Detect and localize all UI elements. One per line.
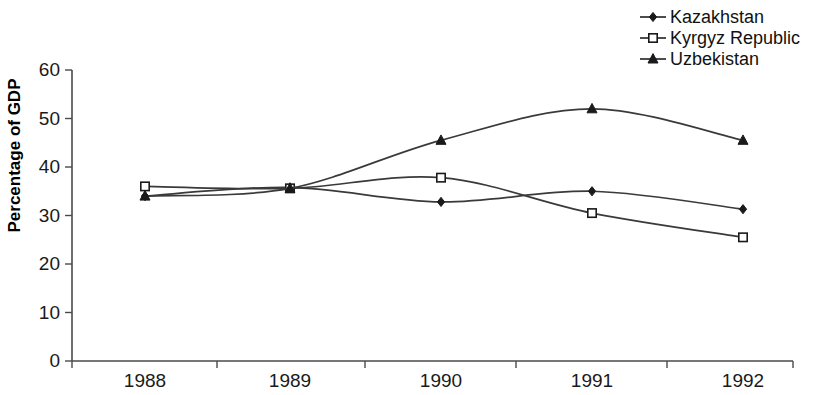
x-axis-ticks: 19881989199019911992 bbox=[72, 361, 793, 391]
chart-axes bbox=[72, 70, 793, 361]
legend-item-label: Kyrgyz Republic bbox=[670, 28, 800, 48]
data-point-marker bbox=[739, 205, 746, 214]
line-chart: KazakhstanKyrgyz RepublicUzbekistan 0102… bbox=[0, 0, 823, 395]
series-line bbox=[145, 187, 743, 209]
x-tick-label: 1990 bbox=[420, 370, 462, 391]
y-tick-label: 20 bbox=[39, 253, 60, 274]
x-tick-label: 1991 bbox=[571, 370, 613, 391]
legend-item-uzbekistan[interactable]: Uzbekistan bbox=[640, 49, 759, 69]
series-line bbox=[145, 109, 743, 196]
data-point-marker bbox=[141, 182, 149, 190]
series-uzbekistan bbox=[140, 103, 748, 200]
chart-container: KazakhstanKyrgyz RepublicUzbekistan 0102… bbox=[0, 0, 823, 395]
legend-item-kyrgyz-republic[interactable]: Kyrgyz Republic bbox=[640, 28, 800, 48]
series-line bbox=[145, 177, 743, 237]
y-tick-label: 0 bbox=[49, 350, 60, 371]
x-tick-label: 1989 bbox=[269, 370, 311, 391]
y-axis-ticks: 0102030405060 bbox=[39, 59, 72, 371]
data-point-marker bbox=[437, 197, 444, 206]
y-tick-label: 60 bbox=[39, 59, 60, 80]
data-point-marker bbox=[437, 173, 445, 181]
data-point-marker bbox=[588, 187, 595, 196]
y-axis-title: Percentage of GDP bbox=[5, 79, 24, 233]
series-kyrgyz-republic bbox=[141, 173, 747, 241]
legend-item-label: Uzbekistan bbox=[670, 49, 759, 69]
legend-item-label: Kazakhstan bbox=[670, 7, 764, 27]
x-tick-label: 1992 bbox=[722, 370, 764, 391]
y-tick-label: 30 bbox=[39, 205, 60, 226]
y-tick-label: 10 bbox=[39, 302, 60, 323]
legend-marker-icon bbox=[649, 12, 656, 21]
y-tick-label: 50 bbox=[39, 108, 60, 129]
chart-series bbox=[140, 103, 748, 241]
series-kazakhstan bbox=[141, 183, 746, 214]
data-point-marker bbox=[588, 209, 596, 217]
legend-item-kazakhstan[interactable]: Kazakhstan bbox=[640, 7, 764, 27]
chart-legend: KazakhstanKyrgyz RepublicUzbekistan bbox=[640, 7, 800, 69]
data-point-marker bbox=[739, 233, 747, 241]
y-tick-label: 40 bbox=[39, 156, 60, 177]
x-tick-label: 1988 bbox=[124, 370, 166, 391]
legend-marker-icon bbox=[649, 34, 657, 42]
